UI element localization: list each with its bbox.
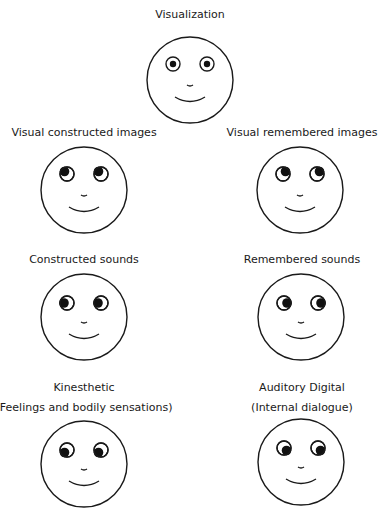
nose (81, 195, 87, 196)
eye-icon (60, 443, 74, 457)
eye-icon (311, 296, 326, 310)
face-visualization (147, 37, 233, 123)
head-outline (41, 274, 127, 360)
head-outline (258, 419, 344, 505)
eye-icon (94, 167, 108, 181)
face-kinesthetic (41, 421, 127, 507)
eye-icon (277, 441, 291, 455)
mouth (286, 334, 316, 339)
mouth (69, 207, 99, 212)
eye-icon (94, 443, 108, 457)
head-outline (41, 421, 127, 507)
nose (297, 195, 303, 196)
faces-layer (0, 0, 382, 519)
mouth (175, 97, 205, 102)
eye-icon (59, 296, 74, 310)
head-outline (257, 147, 343, 233)
face-remembered-sounds (258, 274, 344, 360)
nose (187, 85, 193, 86)
mouth (286, 479, 316, 484)
eye-icon (311, 441, 325, 455)
eye-icon (277, 296, 292, 310)
mouth (69, 334, 99, 339)
nose (81, 322, 87, 323)
eye-icon (310, 167, 324, 181)
eye-icon (93, 296, 108, 310)
face-visual-remembered (257, 147, 343, 233)
nose (298, 467, 304, 468)
eye-icon (276, 167, 290, 181)
eye-icon (60, 167, 74, 181)
face-constructed-sounds (41, 274, 127, 360)
face-visual-constructed (41, 147, 127, 233)
nose (81, 469, 87, 470)
pupil (170, 61, 176, 67)
head-outline (41, 147, 127, 233)
eye-icon (200, 57, 214, 71)
mouth (69, 481, 99, 486)
mouth (285, 207, 315, 212)
eye-icon (166, 57, 180, 71)
pupil (204, 61, 210, 67)
head-outline (258, 274, 344, 360)
nose (298, 322, 304, 323)
face-auditory-digital (258, 419, 344, 505)
head-outline (147, 37, 233, 123)
